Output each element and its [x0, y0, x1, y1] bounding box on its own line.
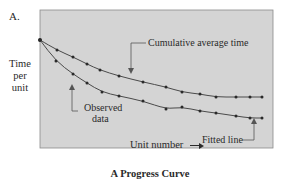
data-point — [72, 73, 75, 76]
data-point — [181, 91, 184, 94]
data-point — [261, 117, 264, 120]
data-point — [101, 91, 104, 94]
data-point — [215, 96, 218, 99]
data-point — [181, 106, 184, 109]
data-point — [86, 63, 89, 66]
annotation-cumulative: Cumulative average time — [148, 37, 249, 48]
data-point — [55, 60, 58, 63]
plot-area — [40, 10, 273, 148]
data-point — [235, 115, 238, 118]
data-point — [235, 96, 238, 99]
data-point — [199, 93, 202, 96]
x-axis-label: Unit number — [130, 139, 204, 150]
annotation-observed-1: Observed — [84, 102, 122, 113]
annotation-fitted: Fitted line — [202, 134, 243, 145]
data-point — [142, 100, 145, 103]
data-point — [72, 56, 75, 59]
data-point — [86, 82, 89, 85]
data-point — [261, 96, 264, 99]
annotation-observed-2: data — [92, 113, 109, 124]
x-label-text: Unit number — [130, 139, 183, 150]
data-point — [99, 69, 102, 72]
progress-curve-chart: Cumulative average time Observed data Fi… — [0, 0, 288, 186]
data-point — [199, 110, 202, 113]
data-point — [165, 86, 168, 89]
data-point — [56, 49, 59, 52]
data-point — [118, 75, 121, 78]
data-point — [118, 95, 121, 98]
data-point — [142, 81, 145, 84]
data-point — [165, 108, 168, 111]
right-arrow-icon — [190, 143, 204, 149]
data-point — [249, 96, 252, 99]
chart-title: A Progress Curve — [0, 168, 288, 179]
data-point — [249, 117, 252, 120]
data-point — [215, 112, 218, 115]
data-point — [39, 39, 42, 42]
